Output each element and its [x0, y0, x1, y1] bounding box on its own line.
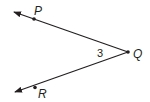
ray-qr [15, 52, 128, 92]
ray-qp [14, 12, 128, 52]
label-p: P [34, 4, 42, 18]
label-q: Q [133, 47, 142, 61]
point-r [33, 86, 37, 90]
vertex-q [126, 50, 130, 54]
label-r: R [38, 87, 47, 101]
angle-number-label: 3 [97, 47, 103, 59]
angle-diagram: P R Q 3 [0, 0, 150, 102]
